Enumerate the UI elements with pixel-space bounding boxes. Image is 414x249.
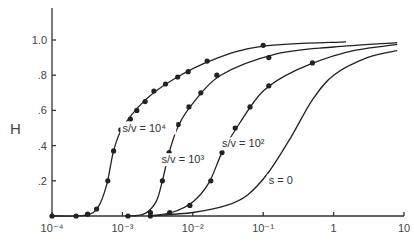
- curve-label: s/v = 10³: [162, 153, 205, 165]
- data-point: [148, 213, 153, 218]
- x-tick-label: 1: [331, 222, 337, 234]
- curve-label: s = 0: [269, 174, 293, 186]
- x-ticks: 10⁻⁴10⁻³10⁻²10⁻¹110: [41, 212, 411, 234]
- data-point: [175, 74, 180, 79]
- axes: [52, 8, 404, 216]
- data-point: [198, 90, 203, 95]
- y-tick-label: 1.0: [32, 34, 47, 46]
- data-point: [85, 212, 90, 217]
- data-point: [143, 99, 148, 104]
- data-point: [187, 203, 192, 208]
- data-point: [310, 60, 315, 65]
- data-point: [125, 213, 130, 218]
- y-tick-label: .2: [38, 175, 47, 187]
- y-tick-label: .6: [38, 104, 47, 116]
- data-point: [219, 150, 224, 155]
- y-axis-label: H: [10, 120, 21, 137]
- curve-labels: s/v = 10⁴s/v = 10³s/v = 10²s = 0: [120, 122, 297, 188]
- data-point: [208, 178, 213, 183]
- data-point: [214, 73, 219, 78]
- data-point: [233, 125, 238, 130]
- curves: [52, 42, 397, 216]
- data-point: [163, 81, 168, 86]
- data-point: [167, 210, 172, 215]
- y-tick-label: .8: [38, 69, 47, 81]
- data-point: [74, 213, 79, 218]
- data-point: [49, 213, 54, 218]
- y-tick-label: .4: [38, 140, 47, 152]
- data-point: [266, 55, 271, 60]
- data-point: [105, 178, 110, 183]
- data-point: [205, 59, 210, 64]
- data-point: [151, 88, 156, 93]
- data-point: [186, 69, 191, 74]
- x-tick-label: 10⁻¹: [252, 222, 274, 234]
- data-point: [186, 104, 191, 109]
- curve-series-2: [148, 44, 397, 216]
- data-point: [247, 104, 252, 109]
- curve-label: s/v = 10²: [222, 137, 265, 149]
- data-point: [176, 122, 181, 127]
- data-point: [111, 148, 116, 153]
- x-tick-label: 10⁻⁴: [41, 222, 64, 234]
- chart: .2.4.6.81.0 10⁻⁴10⁻³10⁻²10⁻¹110 H s/v = …: [0, 0, 414, 249]
- x-tick-label: 10⁻³: [111, 222, 133, 234]
- data-point: [160, 178, 165, 183]
- x-tick-label: 10: [398, 222, 410, 234]
- curve-label: s/v = 10⁴: [122, 122, 166, 134]
- x-tick-label: 10⁻²: [182, 222, 204, 234]
- data-markers: [49, 43, 315, 219]
- data-point: [266, 83, 271, 88]
- data-point: [261, 43, 266, 48]
- data-point: [134, 108, 139, 113]
- curve-series-3: [150, 51, 397, 216]
- data-point: [94, 206, 99, 211]
